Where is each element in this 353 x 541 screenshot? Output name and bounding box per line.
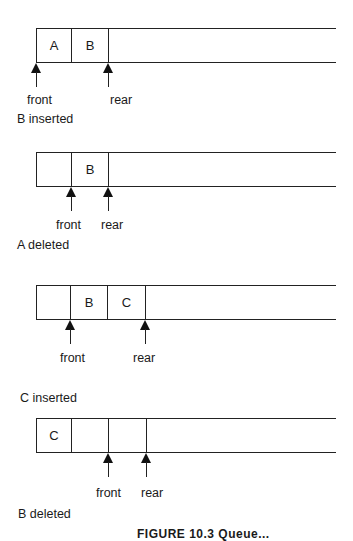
queue-cell: A: [36, 29, 71, 62]
figure-caption: FIGURE 10.3 Queue...: [137, 527, 270, 541]
front-label: front: [56, 218, 81, 232]
rear-label: rear: [110, 93, 132, 107]
queue-array: A B: [36, 28, 336, 63]
rear-arrow-icon: [141, 453, 153, 479]
queue-cell: [36, 286, 70, 319]
queue-cell-boundary: [145, 286, 147, 319]
cell-value: B: [86, 38, 95, 53]
queue-cell: [36, 153, 71, 186]
front-arrow-icon: [31, 63, 43, 89]
panel-caption: C inserted: [20, 391, 77, 405]
queue-cell: B: [71, 153, 108, 186]
panel-caption: B inserted: [17, 112, 73, 126]
front-label: front: [96, 486, 121, 500]
queue-array: B C: [36, 285, 336, 320]
panel-caption: A deleted: [17, 238, 69, 252]
queue-cell: B: [70, 286, 107, 319]
queue-array: B: [36, 152, 336, 187]
panel-caption: B deleted: [18, 507, 71, 521]
cell-value: A: [50, 38, 59, 53]
rear-arrow-icon: [103, 187, 115, 213]
queue-cell: B: [71, 29, 108, 62]
rear-arrow-icon: [140, 320, 152, 346]
queue-cell-boundary: [146, 419, 148, 452]
queue-cell: [108, 419, 146, 452]
front-arrow-icon: [66, 187, 78, 213]
queue-cell: C: [36, 419, 71, 452]
rear-label: rear: [133, 351, 155, 365]
queue-array: C: [36, 418, 336, 453]
front-label: front: [27, 93, 52, 107]
cell-value: B: [85, 295, 94, 310]
front-arrow-icon: [103, 453, 115, 479]
rear-label: rear: [101, 218, 123, 232]
queue-cell: C: [107, 286, 145, 319]
cell-value: C: [122, 295, 131, 310]
cell-value: B: [86, 162, 95, 177]
rear-arrow-icon: [103, 63, 115, 89]
cell-value: C: [49, 428, 58, 443]
front-label: front: [60, 351, 85, 365]
queue-cell: [71, 419, 108, 452]
queue-cell-boundary: [108, 29, 110, 62]
front-arrow-icon: [65, 320, 77, 346]
rear-label: rear: [141, 486, 163, 500]
queue-cell-boundary: [108, 153, 110, 186]
